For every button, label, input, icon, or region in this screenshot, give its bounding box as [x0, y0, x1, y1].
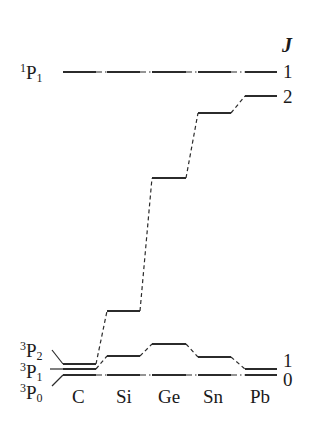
connector-triplet_J1 — [186, 344, 198, 357]
j-label-singlet-1: 1 — [283, 62, 293, 81]
leader-3P0 — [52, 375, 63, 386]
element-label-C: C — [72, 387, 85, 406]
j-axis-header: J — [282, 35, 292, 55]
element-label-Pb: Pb — [250, 387, 270, 406]
energy-level-diagram: J 1P1 3P2 3P1 3P0 C Si Ge Sn Pb 1 2 1 0 — [0, 0, 318, 436]
term-label-3P0: 3P0 — [20, 382, 43, 404]
connector-triplet_J1 — [96, 356, 107, 369]
connector-triplet_J1 — [231, 357, 245, 369]
leader-3P2 — [52, 350, 63, 364]
element-label-Sn: Sn — [203, 387, 223, 406]
j-label-2: 2 — [283, 87, 293, 106]
element-label-Ge: Ge — [158, 387, 180, 406]
connector-triplet_J2 — [231, 96, 245, 113]
connector-triplet_J2 — [140, 178, 152, 311]
term-label-3P1: 3P1 — [20, 361, 43, 383]
j-label-1: 1 — [283, 351, 293, 370]
connector-triplet_J1 — [140, 344, 152, 356]
element-label-Si: Si — [116, 387, 132, 406]
level-lines — [0, 0, 318, 436]
j-label-0: 0 — [283, 370, 293, 389]
connector-triplet_J2 — [186, 113, 198, 178]
term-label-3P2: 3P2 — [20, 340, 43, 362]
term-label-1P1: 1P1 — [20, 62, 43, 84]
connector-triplet_J2 — [96, 311, 107, 364]
